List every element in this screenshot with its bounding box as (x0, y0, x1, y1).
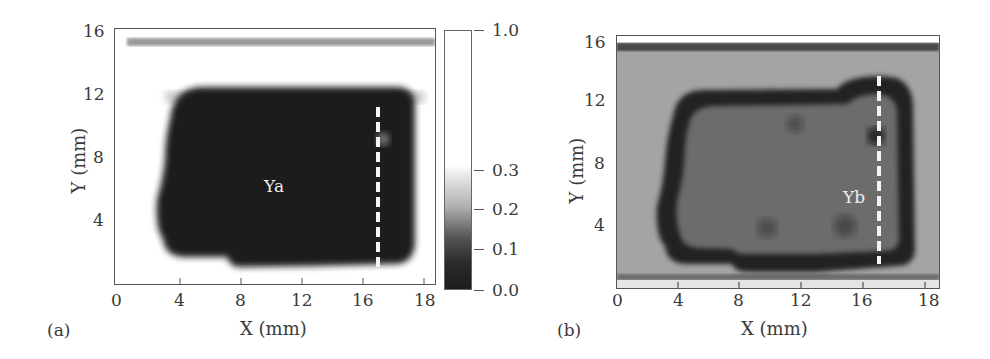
x-axis-title: X (mm) (741, 318, 808, 339)
y-tick-12: 12 (584, 90, 606, 110)
y-tick-16: 16 (584, 32, 606, 52)
x-tick-18: 18 (414, 290, 436, 310)
colorbar-tick-1.0 (474, 30, 484, 31)
colorbar-label-0.2: 0.2 (492, 199, 519, 219)
colorbar-tick-0.2 (474, 209, 484, 210)
colorbar-label-0.3: 0.3 (492, 160, 519, 180)
colorbar-tick-0.1 (474, 249, 484, 250)
x-tick-8: 8 (235, 290, 246, 310)
colorbar-tick-0.0 (474, 290, 484, 291)
x-tick-8: 8 (733, 290, 744, 310)
marker-label-ya: Ya (264, 176, 284, 196)
x-tick-4: 4 (673, 290, 684, 310)
x-axis-title: X (mm) (240, 318, 307, 339)
y-tick-4: 4 (93, 210, 104, 230)
x-tick-16: 16 (851, 290, 873, 310)
colorbar-tick-0.3 (474, 170, 484, 171)
y-tick-12: 12 (83, 84, 105, 104)
y-tick-16: 16 (83, 21, 105, 41)
panel-label-a: (a) (47, 320, 70, 340)
x-tick-4: 4 (174, 290, 185, 310)
x-tick-12: 12 (291, 290, 313, 310)
y-tick-8: 8 (93, 147, 104, 167)
colorbar-label-0.1: 0.1 (492, 239, 519, 259)
y-tick-4: 4 (594, 215, 605, 235)
marker-label-yb: Yb (843, 187, 865, 207)
x-tick-16: 16 (352, 290, 374, 310)
panel-label-b: (b) (557, 320, 581, 340)
y-axis-title: Y (mm) (566, 131, 587, 211)
colorbar-label-1.0: 1.0 (492, 20, 519, 40)
y-tick-8: 8 (594, 153, 605, 173)
colorbar (444, 30, 472, 290)
colorbar-label-0.0: 0.0 (492, 280, 519, 300)
y-axis-title: Y (mm) (68, 121, 89, 201)
heatmap-a (114, 28, 436, 285)
x-tick-0: 0 (111, 290, 122, 310)
x-tick-0: 0 (612, 290, 623, 310)
x-tick-12: 12 (790, 290, 812, 310)
x-tick-18: 18 (918, 290, 940, 310)
heatmap-b (616, 35, 940, 289)
